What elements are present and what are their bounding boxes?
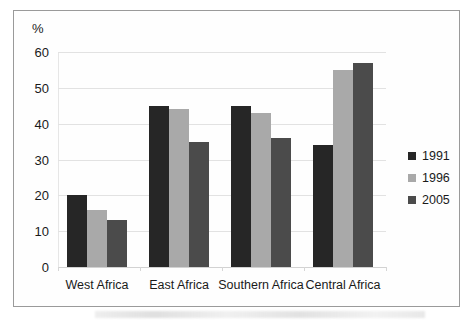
x-tick-end xyxy=(386,267,387,271)
bar-central-africa-1991 xyxy=(313,145,333,267)
chart-frame: % 0102030405060 West AfricaEast AfricaSo… xyxy=(13,10,460,307)
x-category-label-west-africa: West Africa xyxy=(66,278,129,292)
x-category-label-east-africa: East Africa xyxy=(149,278,209,292)
legend-item-1996[interactable]: 1996 xyxy=(408,167,450,189)
y-tick-label-40: 40 xyxy=(35,116,49,131)
bar-central-africa-1996 xyxy=(333,70,353,267)
legend-label-1991: 1991 xyxy=(422,149,450,163)
legend-swatch-1991 xyxy=(408,152,416,160)
y-tick-label-20: 20 xyxy=(35,188,49,203)
bar-southern-africa-1996 xyxy=(251,113,271,267)
bar-central-africa-2005 xyxy=(353,63,373,267)
y-tick-label-50: 50 xyxy=(35,80,49,95)
x-tick-2 xyxy=(222,267,223,271)
gridline-60 xyxy=(58,52,386,53)
legend-label-2005: 2005 xyxy=(422,193,450,207)
x-tick-0 xyxy=(58,267,59,271)
x-tick-3 xyxy=(304,267,305,271)
y-tick-label-60: 60 xyxy=(35,45,49,60)
x-tick-1 xyxy=(140,267,141,271)
bar-east-africa-1991 xyxy=(149,106,169,267)
x-category-label-southern-africa: Southern Africa xyxy=(218,278,303,292)
bar-southern-africa-2005 xyxy=(271,138,291,267)
bar-southern-africa-1991 xyxy=(231,106,251,267)
chart-legend: 199119962005 xyxy=(408,145,450,211)
bar-west-africa-2005 xyxy=(107,220,127,267)
y-tick-label-0: 0 xyxy=(42,260,49,275)
bar-west-africa-1996 xyxy=(87,210,107,267)
legend-item-2005[interactable]: 2005 xyxy=(408,189,450,211)
plot-area: 0102030405060 West AfricaEast AfricaSout… xyxy=(58,52,386,267)
legend-item-1991[interactable]: 1991 xyxy=(408,145,450,167)
y-tick-label-10: 10 xyxy=(35,224,49,239)
legend-swatch-2005 xyxy=(408,196,416,204)
bar-east-africa-1996 xyxy=(169,109,189,267)
scan-artifact-smudge xyxy=(95,311,425,318)
legend-swatch-1996 xyxy=(408,174,416,182)
y-axis-unit-label: % xyxy=(32,21,44,36)
bar-east-africa-2005 xyxy=(189,142,209,267)
y-tick-label-30: 30 xyxy=(35,152,49,167)
bar-west-africa-1991 xyxy=(67,195,87,267)
legend-label-1996: 1996 xyxy=(422,171,450,185)
x-category-label-central-africa: Central Africa xyxy=(305,278,380,292)
